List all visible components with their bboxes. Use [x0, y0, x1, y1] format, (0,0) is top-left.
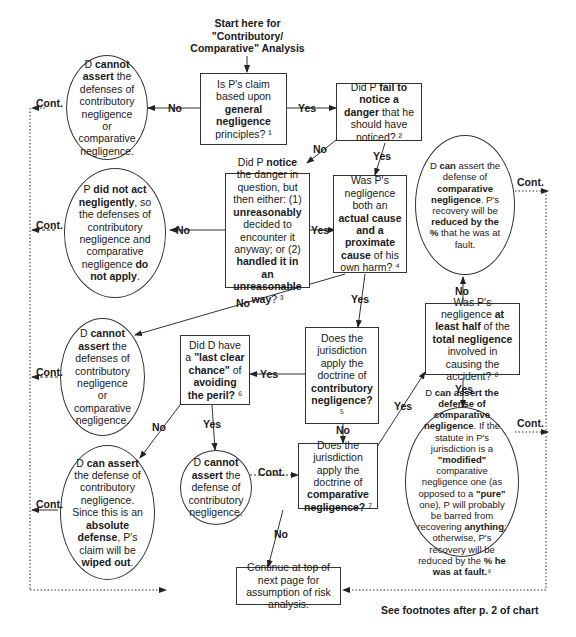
cont-label: Cont. [258, 466, 285, 478]
body-text: . [131, 556, 134, 568]
emphasis-text: anything [464, 521, 504, 532]
cont-label: Cont. [517, 417, 544, 429]
body-text: D [76, 457, 87, 469]
body-text: D [430, 160, 440, 171]
node-text: Was P's negligence both an actual cause … [338, 174, 402, 273]
question-comparative-doctrine: Does the jurisdiction apply the doctrine… [298, 443, 378, 509]
body-text: the defenses of contributory negligence … [74, 340, 131, 426]
footer-note: See footnotes after p. 2 of chart [381, 604, 539, 616]
body-text: D [80, 327, 91, 339]
body-text: Was P's negligence both an [345, 174, 396, 211]
body-text: the defenses of contributory negligence … [78, 70, 135, 156]
body-text: . [137, 270, 140, 282]
node-text: Continue at top of next page for assumpt… [241, 561, 336, 611]
start-label: Start here for "Contributory/ Comparativ… [185, 14, 310, 58]
body-text: the defense of contributory negligence. … [72, 469, 143, 518]
body-text: Did P [238, 156, 266, 168]
node-text: Does the jurisdiction apply the doctrine… [303, 439, 373, 513]
emphasis-text: total negligence [433, 333, 513, 345]
body-text: of the [481, 320, 510, 332]
node-text: Did P notice the danger in question, but… [230, 156, 305, 305]
body-text: ⁶ [235, 389, 242, 401]
label-no: No [274, 528, 288, 540]
label-yes: Yes [311, 224, 329, 236]
label-yes: Yes [260, 368, 278, 380]
node-text: D can assert the defense of comparative … [416, 387, 508, 577]
emphasis-text: comparative negligence? [304, 488, 369, 512]
body-text: D [194, 456, 205, 468]
node-text: D cannot assert the defenses of contribu… [71, 327, 134, 426]
body-text: of [230, 364, 242, 376]
emphasis-text: notice [266, 156, 297, 168]
emphasis-text: "modified" [438, 454, 487, 465]
outcome-cannot-assert-1: D cannot assert the defenses of contribu… [66, 55, 148, 160]
body-text: ⁷ [365, 501, 372, 513]
node-text: D can assert the defense of comparative … [426, 160, 504, 250]
question-at-least-half: Was P's negligence at least half of the … [425, 303, 520, 375]
label-no: No [176, 224, 190, 236]
cont-label: Cont. [36, 219, 63, 231]
emphasis-text: avoiding the peril? [188, 376, 237, 400]
node-text: D can assert the defense of contributory… [71, 457, 144, 569]
emphasis-text: general negligence [216, 103, 271, 127]
body-text: principles? ¹ [215, 128, 272, 140]
label-no: No [455, 285, 469, 297]
body-text: Continue at top of next page for assumpt… [246, 561, 331, 610]
cont-label: Cont. [517, 176, 544, 188]
emphasis-text: can assert [87, 457, 139, 469]
outcome-cannot-assert-2: D cannot assert the defenses of contribu… [60, 318, 145, 436]
node-text: D cannot assert the defenses of contribu… [77, 58, 137, 157]
emphasis-text: unreasonably [233, 206, 301, 218]
label-no: No [168, 102, 182, 114]
question-actual-proximate-cause: Was P's negligence both an actual cause … [333, 175, 407, 273]
emphasis-text: contributory negligence? [311, 382, 373, 406]
body-text: P [84, 183, 94, 195]
continue-next-page-box[interactable]: Continue at top of next page for assumpt… [236, 567, 341, 605]
body-text: the danger in question, but then either:… [233, 168, 301, 205]
question-general-negligence: Is P's claim based upon general negligen… [200, 73, 287, 145]
body-text: that he was at fault. [438, 227, 500, 249]
question-last-clear-chance: Did D have a "last clear chance" of avoi… [180, 335, 250, 405]
body-text: decided to encounter it anyway; or (2) [234, 218, 301, 255]
cont-label: Cont. [36, 97, 63, 109]
question-contributory-doctrine: Does the jurisdiction apply the doctrine… [305, 327, 379, 424]
emphasis-text: can [439, 160, 455, 171]
label-yes: Yes [203, 418, 221, 430]
label-no: No [152, 421, 166, 433]
node-text: P did not act negligently, so the defens… [75, 183, 155, 282]
node-text: Does the jurisdiction apply the doctrine… [310, 332, 374, 419]
label-yes: Yes [455, 383, 473, 395]
body-text: ⁵ [340, 407, 344, 419]
cont-label: Cont. [36, 366, 63, 378]
outcome-not-negligent: P did not act negligently, so the defens… [64, 168, 166, 298]
outcome-comparative-modified: D can assert the defense of comparative … [405, 407, 519, 557]
label-no: No [336, 424, 350, 436]
body-text: Was P's negligence [441, 296, 495, 320]
node-text: D cannot assert the defense of contribut… [189, 456, 244, 518]
question-noticed-danger: Did P notice the danger in question, but… [225, 173, 310, 288]
label-no: No [236, 297, 250, 309]
label-no: No [313, 143, 327, 155]
outcome-cannot-assert-contributory: D cannot assert the defense of contribut… [180, 450, 252, 525]
body-text: Does the jurisdiction apply the doctrine… [313, 439, 363, 488]
node-text: Did D have a "last clear chance" of avoi… [185, 339, 245, 401]
body-text: Did P [351, 81, 379, 93]
outcome-comparative-reduced: D can assert the defense of comparative … [415, 135, 515, 275]
emphasis-text: "pure" [476, 488, 506, 499]
body-text: D [425, 387, 435, 398]
emphasis-text: wiped out [82, 556, 131, 568]
label-yes: Yes [373, 150, 391, 162]
body-text: Does the jurisdiction apply the doctrine… [317, 332, 367, 381]
label-yes: Yes [351, 293, 369, 305]
body-text: ⁹ [487, 566, 491, 577]
node-text: Did P fail to notice a danger that he sh… [341, 81, 417, 143]
body-text: involved in causing the accident? ⁸ [446, 345, 500, 382]
body-text: ? ³ [271, 293, 283, 305]
outcome-contributory-absolute: D can assert the defense of contributory… [60, 445, 155, 580]
body-text: D [85, 58, 96, 70]
label-yes: Yes [298, 102, 316, 114]
cont-label: Cont. [36, 498, 63, 510]
label-yes: Yes [394, 400, 412, 412]
question-fail-to-notice: Did P fail to notice a danger that he sh… [336, 83, 422, 141]
node-text: Is P's claim based upon general negligen… [205, 78, 282, 140]
